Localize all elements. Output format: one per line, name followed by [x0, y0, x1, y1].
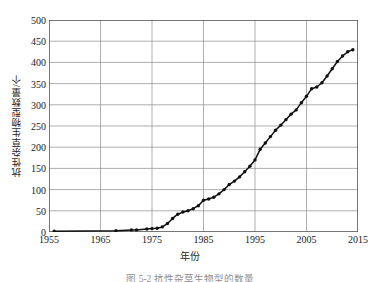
x-axis-tick-labels: 1955196519751985199520052015 — [0, 234, 380, 248]
y-tick-label: 250 — [31, 121, 46, 132]
y-tick-label: 400 — [31, 57, 46, 68]
x-tick-label: 1985 — [194, 234, 214, 245]
x-tick-label: 1975 — [142, 234, 162, 245]
x-tick-label: 2005 — [297, 234, 317, 245]
x-tick-label: 1995 — [245, 234, 265, 245]
y-tick-label: 150 — [31, 163, 46, 174]
y-tick-label: 500 — [31, 15, 46, 26]
figure-caption: 图 5-2 抗性杂草生物型的数量 — [0, 271, 380, 282]
x-tick-label: 1955 — [39, 234, 59, 245]
line-chart-svg — [49, 20, 358, 232]
y-axis-tick-labels: 050100150200250300350400450500 — [22, 20, 46, 232]
y-tick-label: 50 — [36, 205, 46, 216]
figure-container: 抗性杂草生物型数量/个 0501001502002503003504004505… — [0, 0, 380, 282]
y-tick-label: 350 — [31, 78, 46, 89]
plot-area — [49, 20, 358, 232]
y-tick-label: 200 — [31, 142, 46, 153]
x-tick-label: 1965 — [91, 234, 111, 245]
x-axis-title: 年份 — [0, 248, 380, 263]
y-tick-label: 100 — [31, 184, 46, 195]
y-tick-label: 450 — [31, 36, 46, 47]
y-tick-label: 300 — [31, 99, 46, 110]
x-tick-label: 2015 — [348, 234, 368, 245]
